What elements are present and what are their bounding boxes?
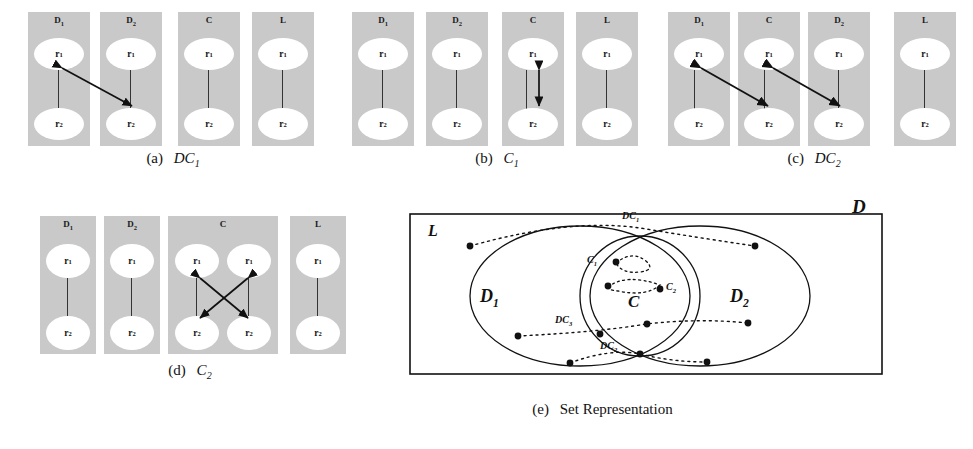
point-DC2-right xyxy=(704,359,711,366)
venn-label-D1: D1 xyxy=(480,286,499,310)
venn-annotation-C2: C2 xyxy=(666,281,676,294)
venn-label-C: C xyxy=(628,292,639,312)
caption-e: (e) Set Representation xyxy=(320,401,885,418)
point-DC1-right xyxy=(752,243,759,250)
point-DC3-mid-right xyxy=(644,321,651,328)
arrow-D1r1-to-D2r2 xyxy=(62,68,132,106)
caption-d: (d) C2 xyxy=(40,362,340,381)
caption-sub: 1 xyxy=(195,158,200,169)
caption-symbol: C xyxy=(504,150,514,166)
relation-C2-loop xyxy=(608,279,660,293)
caption-symbol: C xyxy=(197,362,207,378)
caption-sub: 2 xyxy=(207,370,212,381)
subfigure-b: D1 r1 r2 D2 r1 r2 C r1 r2 L r1 xyxy=(352,8,642,183)
arrow-Cr1-to-D2r2 xyxy=(773,68,840,106)
figure-root: D1 r1 r2 D2 r1 r2 C r1 r2 L r1 xyxy=(0,0,973,449)
arrow-D1r1-to-Cr2 xyxy=(701,68,768,106)
arrow-overlay-b xyxy=(352,8,642,150)
arrow-overlay-a xyxy=(28,8,318,150)
point-DC2-left xyxy=(567,360,574,367)
caption-sub: 2 xyxy=(836,158,841,169)
point-DC3-right xyxy=(745,320,752,327)
caption-symbol: DC xyxy=(815,150,836,166)
caption-b: (b) C1 xyxy=(352,150,642,169)
caption-a: (a) DC1 xyxy=(28,150,318,169)
caption-prefix: (a) xyxy=(146,150,163,166)
caption-symbol: DC xyxy=(174,150,195,166)
venn-circle-C xyxy=(580,236,700,356)
caption-c: (c) DC2 xyxy=(668,150,960,169)
venn-annotation-C1: C1 xyxy=(587,254,597,267)
venn-annotation-DC2: DC2 xyxy=(600,340,617,353)
venn-annotation-DC1: DC1 xyxy=(622,210,639,223)
caption-text: Set Representation xyxy=(560,401,673,417)
subfigure-d: D1 r1 r2 D2 r1 r2 C r1 r2 r1 r2 xyxy=(40,212,340,402)
venn-annotation-DC3: DC3 xyxy=(555,314,572,327)
point-C2-left xyxy=(605,283,612,290)
subfigure-c: D1 r1 r2 C r1 r2 D2 r1 r2 L r1 xyxy=(668,8,960,183)
point-C1 xyxy=(613,259,620,266)
venn-label-L: L xyxy=(428,222,438,240)
point-DC3-left xyxy=(515,333,522,340)
venn-label-D2: D2 xyxy=(730,286,749,310)
subfigure-a: D1 r1 r2 D2 r1 r2 C r1 r2 L r1 xyxy=(28,8,318,183)
caption-prefix: (c) xyxy=(787,150,804,166)
caption-prefix: (d) xyxy=(168,362,186,378)
caption-sub: 1 xyxy=(514,158,519,169)
caption-prefix: (e) xyxy=(532,401,549,417)
relation-DC3 xyxy=(518,321,748,336)
point-DC1-left xyxy=(467,243,474,250)
point-DC3-mid-left xyxy=(597,331,604,338)
point-C2-right xyxy=(657,286,664,293)
relation-C1-loop xyxy=(616,256,650,272)
arrow-overlay-d xyxy=(40,212,340,362)
arrow-overlay-c xyxy=(668,8,960,150)
subfigure-e: D xyxy=(400,196,965,446)
point-DC2-mid xyxy=(637,351,644,358)
caption-prefix: (b) xyxy=(475,150,493,166)
